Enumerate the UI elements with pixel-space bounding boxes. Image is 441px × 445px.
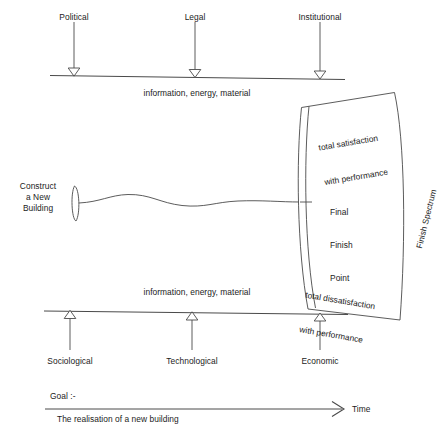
label-technological: Technological — [166, 356, 217, 367]
process-start-line-1: Construct — [8, 181, 68, 192]
process-start-label: Construct a New Building — [8, 181, 68, 214]
label-legal: Legal — [185, 12, 206, 23]
label-institutional: Institutional — [298, 12, 341, 23]
process-wavy-line — [79, 194, 300, 206]
arrow-technological — [186, 312, 198, 350]
final-finish-point-line-2: Finish — [330, 240, 353, 251]
goal-heading: Goal :- — [50, 391, 75, 402]
spectrum-top-caption-line-1: total satisfaction — [318, 132, 383, 154]
top-input-group — [50, 22, 345, 80]
goal-statement: The realisation of a new building — [57, 414, 179, 425]
process-start-line-2: a New — [8, 192, 68, 203]
spectrum-bottom-caption-line-2: with performance — [299, 324, 371, 347]
arrow-sociological — [64, 310, 76, 350]
spectrum-bottom-caption-line-1: total dissatisfaction — [304, 290, 376, 313]
label-economic: Economic — [301, 356, 338, 367]
arrow-political — [68, 22, 80, 76]
spectrum-top-caption-line-2: with performance — [323, 166, 388, 188]
label-top-flow: information, energy, material — [144, 88, 251, 99]
process-trajectory-group — [72, 186, 300, 221]
top-boundary-line — [50, 76, 345, 80]
label-political: Political — [59, 12, 88, 23]
process-start-line-3: Building — [8, 203, 68, 214]
process-start-lens — [72, 186, 79, 221]
diagram-vector-layer — [0, 0, 441, 445]
spectrum-bottom-caption: total dissatisfaction with performance — [295, 267, 380, 369]
time-axis-label: Time — [352, 404, 371, 415]
label-sociological: Sociological — [47, 356, 92, 367]
label-bottom-flow: information, energy, material — [144, 287, 251, 298]
diagram-canvas: Political Legal Institutional informatio… — [0, 0, 441, 445]
arrow-legal — [189, 22, 201, 78]
arrow-institutional — [314, 22, 326, 79]
